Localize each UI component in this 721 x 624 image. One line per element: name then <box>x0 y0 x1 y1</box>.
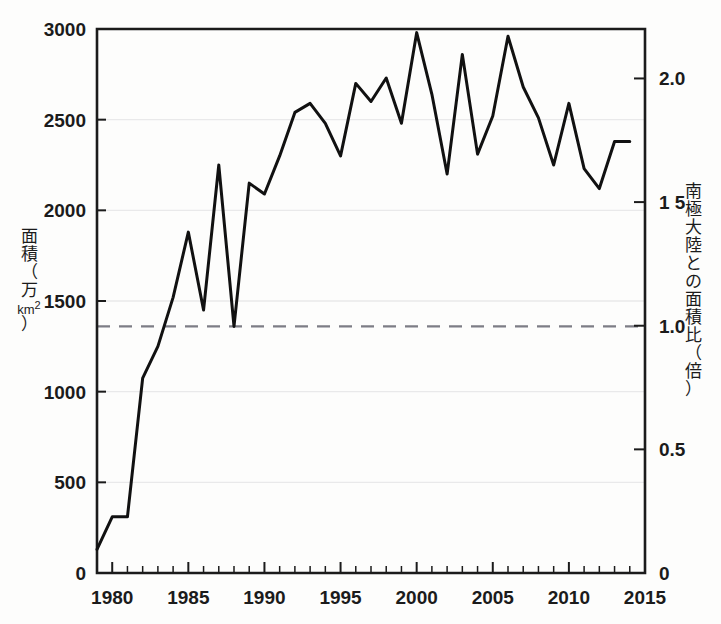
x-axis-tick-labels: 19801985199019952000200520102015 <box>91 587 666 608</box>
y-axis-tick-labels: 050010001500200025003000 <box>44 19 86 584</box>
x-tick-label-1995: 1995 <box>319 587 362 608</box>
axis-title-char: 万 <box>14 282 44 300</box>
x-tick-label-1980: 1980 <box>91 587 133 608</box>
x-tick-label-2000: 2000 <box>396 587 438 608</box>
y-tick-label-2000: 2000 <box>44 200 86 221</box>
y-axis-title: 面積（万km2） <box>14 228 44 334</box>
x-tick-label-1985: 1985 <box>167 587 210 608</box>
x-tick-label-2005: 2005 <box>472 587 515 608</box>
axis-title-char: ） <box>14 316 44 334</box>
y-tick-label-0: 0 <box>75 563 86 584</box>
y-tick-label-2500: 2500 <box>44 110 86 131</box>
line-chart: 19801985199019952000200520102015 0500100… <box>0 0 721 624</box>
data-line-0 <box>97 33 630 550</box>
x-tick-label-1990: 1990 <box>243 587 285 608</box>
y-axis-ticks <box>97 29 106 573</box>
y-tick-label-500: 500 <box>54 472 86 493</box>
x-tick-label-2010: 2010 <box>548 587 590 608</box>
chart-page: 19801985199019952000200520102015 0500100… <box>0 0 721 624</box>
y2-axis-ticks <box>634 78 645 573</box>
y-tick-label-1500: 1500 <box>44 291 86 312</box>
axis-title-char: ） <box>678 381 708 399</box>
y-tick-label-1000: 1000 <box>44 382 86 403</box>
x-tick-label-2015: 2015 <box>624 587 667 608</box>
y2-tick-label-0: 0 <box>659 563 670 584</box>
y2-tick-label-4: 2.0 <box>659 68 685 89</box>
y2-axis-title: 南極大陸との面積比（倍） <box>678 183 708 399</box>
y2-tick-label-1: 0.5 <box>659 439 686 460</box>
y-tick-label-3000: 3000 <box>44 19 86 40</box>
grid-lines <box>98 29 644 482</box>
data-series-layer <box>97 33 630 550</box>
x-axis-ticks <box>112 562 645 573</box>
